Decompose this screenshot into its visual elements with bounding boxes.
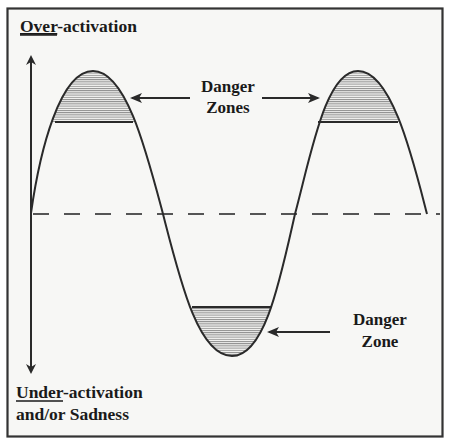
- over-label-rest: -activation: [57, 16, 137, 36]
- upper-callout-line1: Danger: [201, 77, 255, 96]
- over-activation-label: Over-activation: [20, 16, 137, 36]
- over-label-underlined: Over: [20, 16, 58, 36]
- under-label-underlined: Under: [16, 382, 64, 402]
- upper-callout-line2: Zones: [206, 98, 250, 117]
- under-label-rest: -activation: [63, 382, 143, 402]
- under-activation-label: Under-activation: [16, 382, 143, 402]
- lower-callout-line2: Zone: [362, 332, 399, 351]
- sadness-label: and/or Sadness: [16, 404, 129, 424]
- activation-wave-diagram: Over-activation Under-activation and/or …: [0, 0, 450, 443]
- lower-callout-line1: Danger: [353, 310, 407, 329]
- diagram-frame: [8, 9, 443, 437]
